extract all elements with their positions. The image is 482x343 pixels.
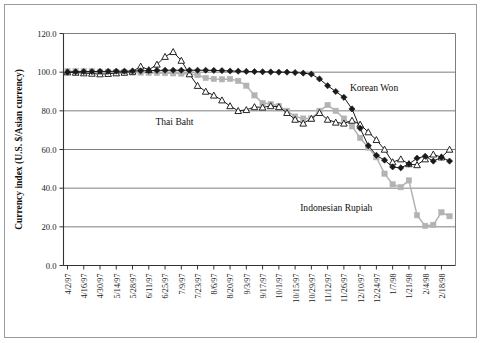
data-point-marker <box>430 158 436 164</box>
data-point-marker <box>202 88 209 94</box>
x-tick-label: 8/20/97 <box>226 274 235 299</box>
x-tick-label: 7/9/97 <box>178 274 187 295</box>
data-point-marker <box>219 77 224 82</box>
x-tick-label: 2/18/98 <box>438 274 447 299</box>
data-point-marker <box>251 68 257 74</box>
x-tick-label: 10/1/97 <box>275 274 284 299</box>
series-line <box>68 71 450 226</box>
data-point-marker <box>406 178 411 183</box>
x-tick-label: 5/14/97 <box>113 274 122 299</box>
data-point-marker <box>284 69 290 75</box>
y-tick-label: 100.0 <box>37 67 56 77</box>
data-point-marker <box>227 103 234 109</box>
x-tick-label: 2/4/98 <box>422 274 431 295</box>
data-point-marker <box>333 88 339 94</box>
data-point-marker <box>211 76 216 81</box>
x-tick-label: 4/2/97 <box>64 274 73 295</box>
data-point-marker <box>219 97 226 103</box>
x-tick-label: 12/10/97 <box>357 274 366 303</box>
x-tick-label: 6/11/97 <box>145 274 154 299</box>
data-point-marker <box>211 92 218 98</box>
y-tick-label: 40.0 <box>41 183 56 193</box>
y-tick-label: 20.0 <box>41 222 56 232</box>
data-point-marker <box>162 53 169 59</box>
x-tick-label: 10/15/97 <box>292 274 301 303</box>
data-point-marker <box>244 83 249 88</box>
series-label-korean-won: Korean Won <box>350 82 399 93</box>
data-point-marker <box>170 49 177 55</box>
x-tick-label: 12/24/97 <box>373 274 382 303</box>
data-point-marker <box>414 213 419 218</box>
data-point-marker <box>397 156 404 162</box>
x-tick-label: 1/21/98 <box>405 274 414 299</box>
data-point-marker <box>227 76 232 81</box>
data-point-marker <box>439 210 444 215</box>
x-tick-label: 7/23/97 <box>194 274 203 299</box>
x-tick-label: 11/26/97 <box>340 274 349 303</box>
data-point-marker <box>300 70 306 76</box>
data-point-marker <box>236 78 241 83</box>
x-tick-label: 11/12/97 <box>324 274 333 303</box>
x-tick-label: 10/29/97 <box>308 274 317 303</box>
data-point-marker <box>430 151 437 157</box>
data-point-marker <box>447 214 452 219</box>
x-tick-label: 6/25/97 <box>161 274 170 299</box>
data-point-marker <box>259 69 265 75</box>
data-point-marker <box>422 223 427 228</box>
data-point-marker <box>219 68 225 74</box>
y-axis-title: Currency index (U.S. $/Asian currency) <box>14 69 25 230</box>
x-tick-label: 1/7/98 <box>389 274 398 295</box>
data-point-marker <box>243 68 249 74</box>
data-point-marker <box>431 222 436 227</box>
data-point-marker <box>398 165 404 171</box>
x-tick-label: 5/28/97 <box>129 274 138 299</box>
series-label-indonesian-rupiah: Indonesian Rupiah <box>300 202 372 213</box>
data-point-marker <box>268 69 274 75</box>
currency-index-line-chart: 0.020.040.060.080.0100.0120.0Currency in… <box>0 0 482 343</box>
y-tick-label: 120.0 <box>37 29 56 39</box>
data-point-marker <box>382 171 387 176</box>
data-point-marker <box>292 69 298 75</box>
data-point-marker <box>333 108 338 113</box>
x-tick-label: 9/3/97 <box>243 274 252 295</box>
y-tick-label: 60.0 <box>41 145 56 155</box>
data-point-marker <box>252 93 257 98</box>
data-point-marker <box>325 102 330 107</box>
data-point-marker <box>414 155 420 161</box>
data-point-marker <box>227 68 233 74</box>
data-point-marker <box>194 82 201 88</box>
chart-figure: 0.020.040.060.080.0100.0120.0Currency in… <box>0 0 482 343</box>
x-tick-label: 8/6/97 <box>210 274 219 295</box>
data-point-marker <box>349 117 356 123</box>
x-tick-label: 4/16/97 <box>80 274 89 299</box>
data-point-marker <box>276 69 282 75</box>
data-point-marker <box>357 135 362 140</box>
data-point-marker <box>398 185 403 190</box>
y-tick-label: 0.0 <box>46 261 57 271</box>
data-point-marker <box>390 182 395 187</box>
series-label-thai-baht: Thai Baht <box>155 116 193 127</box>
data-point-marker <box>235 68 241 74</box>
data-point-marker <box>349 124 354 129</box>
y-tick-label: 80.0 <box>41 106 56 116</box>
data-point-marker <box>203 75 208 80</box>
x-tick-label: 4/30/97 <box>96 274 105 299</box>
data-point-marker <box>341 94 347 100</box>
data-point-marker <box>446 158 452 164</box>
x-tick-label: 9/17/97 <box>259 274 268 299</box>
